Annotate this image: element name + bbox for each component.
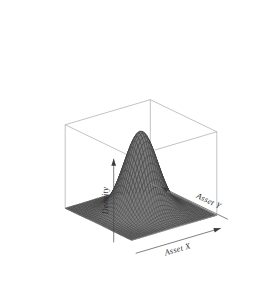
x-axis-label: Asset X bbox=[162, 241, 192, 258]
asset-x-axis-arrow-icon bbox=[213, 228, 220, 233]
gaussian-density-surface bbox=[65, 131, 217, 240]
persp-3d-canvas: Asset X Asset Y Density bbox=[0, 0, 278, 286]
density-axis-arrow-icon bbox=[111, 159, 116, 166]
surface-plot-figure: Asset X Asset Y Density bbox=[0, 0, 278, 286]
z-axis-label: Density bbox=[101, 187, 110, 215]
